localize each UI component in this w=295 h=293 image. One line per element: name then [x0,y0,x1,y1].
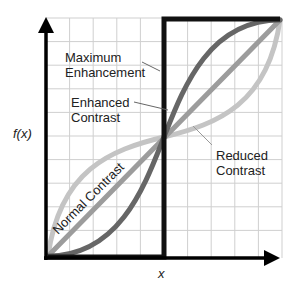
y-axis-arrow-icon [38,17,54,33]
maximum-enhancement-label: Maximum Enhancement [65,50,145,80]
enhanced-contrast-label-line2: Contrast [71,110,130,125]
x-axis-label: x [158,266,165,281]
y-axis-label: f(x) [13,126,32,141]
contrast-function-diagram [0,0,295,293]
enhanced-contrast-label-line1: Enhanced [71,95,130,110]
reduced-contrast-label: Reduced Contrast [216,148,268,178]
reduced-contrast-label-line1: Reduced [216,148,268,163]
x-axis-arrow-icon [264,250,280,266]
enhanced-contrast-label: Enhanced Contrast [71,95,130,125]
maximum-enhancement-label-line2: Enhancement [65,65,145,80]
maximum-enhancement-label-line1: Maximum [65,50,145,65]
reduced-contrast-label-line2: Contrast [216,163,268,178]
